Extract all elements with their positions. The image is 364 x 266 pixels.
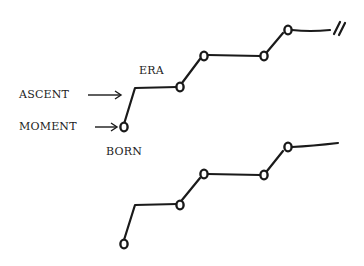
node (176, 83, 183, 92)
moment-node (120, 123, 127, 132)
node (176, 201, 183, 210)
moment-label: MOMENT (19, 120, 77, 133)
moment-arrow-icon (95, 123, 117, 131)
node (284, 143, 291, 152)
ascent-label: ASCENT (19, 88, 69, 101)
node (284, 26, 291, 35)
node (200, 170, 207, 179)
node (120, 240, 127, 249)
break-mark-icon (334, 22, 345, 35)
born-label: BORN (106, 145, 142, 158)
node (200, 52, 207, 61)
node (260, 52, 267, 61)
ascent-arrow-icon (88, 91, 121, 99)
node (260, 171, 267, 180)
timeline-diagram (0, 0, 364, 266)
bottom-timeline (120, 143, 338, 249)
era-label: ERA (139, 64, 164, 77)
